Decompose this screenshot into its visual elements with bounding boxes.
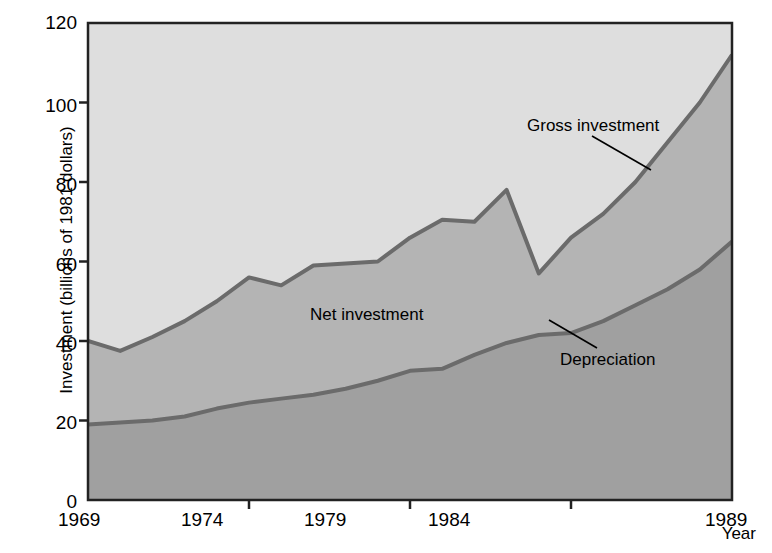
x-tick-label-1969: 1969 xyxy=(58,510,100,529)
x-tick-label-1979: 1979 xyxy=(304,510,346,529)
investment-area-chart: Investment (billions of 1981 dollars) Ye… xyxy=(0,0,772,553)
x-tick-label-1984: 1984 xyxy=(428,510,470,529)
x-tick-label-1989: 1989 xyxy=(705,510,747,529)
x-tick-label-1974: 1974 xyxy=(181,510,223,529)
plot-area xyxy=(0,0,772,553)
series-label-depreciation: Depreciation xyxy=(560,350,655,370)
series-label-net-investment: Net investment xyxy=(310,305,423,325)
y-tick-label-40: 40 xyxy=(31,334,77,353)
y-tick-label-20: 20 xyxy=(31,413,77,432)
y-tick-label-120: 120 xyxy=(31,13,77,32)
y-axis-ticks xyxy=(79,103,88,421)
y-tick-label-80: 80 xyxy=(31,175,77,194)
x-axis-ticks xyxy=(249,500,571,509)
series-label-gross-investment: Gross investment xyxy=(527,116,659,136)
y-tick-label-100: 100 xyxy=(31,96,77,115)
y-tick-label-60: 60 xyxy=(31,255,77,274)
